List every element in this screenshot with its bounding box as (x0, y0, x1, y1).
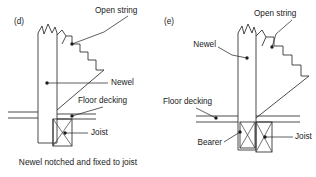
panel-label-e: (e) (164, 17, 174, 26)
leader-open-string-e (270, 20, 292, 49)
panel-label-d: (d) (14, 17, 24, 26)
figure-canvas: (d) Open string Newel Floor decking (0, 0, 316, 177)
leader-open-string-d (70, 16, 128, 46)
leader-dot-open-string-d (70, 42, 73, 45)
panel-d: (d) Open string Newel Floor decking (8, 6, 138, 167)
label-joist-d: Joist (91, 128, 109, 137)
leader-floor-decking-e (196, 108, 218, 120)
open-string-e (256, 30, 309, 118)
leader-dot-joist-e (263, 135, 266, 138)
leader-joist-d (63, 131, 88, 134)
label-open-string-e: Open string (254, 9, 297, 18)
label-open-string-d: Open string (95, 6, 138, 15)
leader-joist-e (263, 135, 293, 138)
leader-dot-newel-d (45, 81, 48, 84)
leader-bearer-e (224, 130, 242, 142)
label-newel-e: Newel (193, 40, 216, 49)
label-joist-e: Joist (295, 132, 313, 141)
bearer-e (240, 122, 255, 148)
leader-dot-newel-e (245, 56, 248, 59)
leader-dot-floor-decking-d (70, 114, 73, 117)
floor-decking-e (196, 116, 300, 122)
leader-dot-bearer-e (238, 130, 241, 133)
label-newel-d: Newel (111, 78, 134, 87)
leader-floor-decking-d (70, 107, 103, 118)
label-bearer-e: Bearer (197, 138, 222, 147)
leader-dot-joist-d (63, 131, 66, 134)
leader-dot-open-string-e (270, 45, 273, 48)
caption-d: Newel notched and fixed to joist (19, 157, 138, 167)
panel-e: (e) Open string Newel Floor decking (163, 9, 313, 152)
joist-d (53, 119, 72, 146)
leader-dot-floor-decking-e (214, 116, 217, 119)
label-floor-decking-e: Floor decking (163, 97, 213, 106)
leader-newel-e (218, 47, 249, 60)
stair-newel-detail-figure: (d) Open string Newel Floor decking (0, 0, 316, 177)
label-floor-decking-d: Floor decking (78, 96, 128, 105)
leader-newel-d (45, 81, 108, 84)
